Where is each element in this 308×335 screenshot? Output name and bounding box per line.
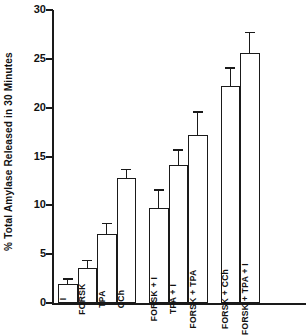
y-axis-tick-label: 30: [18, 4, 46, 15]
error-bar-cap: [245, 32, 255, 33]
error-bar-stem: [230, 69, 231, 87]
bar-label: I: [59, 298, 68, 301]
error-bar-stem: [67, 280, 68, 285]
bar-label: CCh: [117, 290, 126, 308]
error-bar-cap: [102, 223, 112, 224]
error-bar-cap: [225, 67, 235, 68]
y-axis-tick-mark: [46, 204, 53, 206]
error-bar-cap: [154, 189, 164, 190]
y-axis-tick-mark: [46, 9, 53, 11]
y-axis-tick-mark: [46, 302, 53, 304]
y-axis-tick-label: 0: [18, 297, 46, 308]
y-axis-title: % Total Amylase Released in 30 Minutes: [0, 0, 18, 303]
error-bar-stem: [197, 113, 198, 135]
y-axis-tick-mark: [46, 156, 53, 158]
bar-label: TPA: [98, 290, 107, 307]
bar-label: FORSK: [78, 283, 87, 314]
error-bar-stem: [106, 224, 107, 234]
error-bar-stem: [158, 191, 159, 209]
y-axis-tick-label: 5: [18, 248, 46, 259]
bar-tpa: TPA: [97, 234, 117, 303]
error-bar-cap: [82, 260, 92, 261]
bar-i: I: [58, 284, 78, 303]
bar-label: TPA + I: [169, 284, 178, 314]
error-bar-stem: [249, 33, 250, 53]
y-axis-tick-label: 10: [18, 199, 46, 210]
bar-label: FORSK + I: [150, 277, 159, 322]
bar-label: FORSK + CCh: [221, 269, 230, 329]
y-axis-tick-label: 15: [18, 151, 46, 162]
plot-area: IFORSKTPACChFORSK + ITPA + IFORSK + TPAF…: [54, 10, 306, 303]
y-axis-tick-label: 25: [18, 53, 46, 64]
error-bar-stem: [87, 261, 88, 268]
error-bar-cap: [173, 149, 183, 150]
y-axis-tick-label: 20: [18, 102, 46, 113]
error-bar-cap: [63, 278, 73, 279]
bar-forsk-cch: FORSK + CCh: [221, 86, 241, 303]
error-bar-stem: [178, 151, 179, 166]
bar-cch: CCh: [117, 178, 137, 303]
bar-forsk-tpa: FORSK + TPA: [188, 135, 208, 303]
error-bar-stem: [126, 170, 127, 178]
bar-label: FORSK + TPA: [189, 269, 198, 328]
bar-forsk-tpa-i: FORSK + TPA + I: [240, 53, 260, 303]
bar-tpa-i: TPA + I: [169, 165, 189, 303]
y-axis-tick-mark: [46, 58, 53, 60]
bar-forsk-i: FORSK + I: [149, 208, 169, 303]
x-axis-line: [52, 303, 306, 305]
bar-label: FORSK + TPA + I: [241, 263, 250, 335]
bar-forsk: FORSK: [78, 268, 98, 303]
error-bar-cap: [121, 169, 131, 170]
y-axis-tick-mark: [46, 253, 53, 255]
error-bar-cap: [193, 111, 203, 112]
y-axis-tick-mark: [46, 107, 53, 109]
